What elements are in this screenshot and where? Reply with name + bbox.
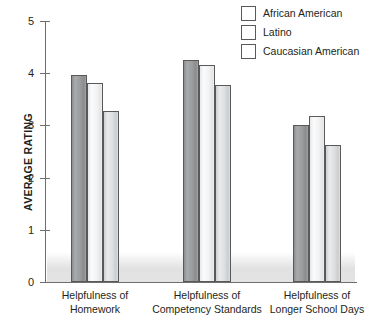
y-tick-2: 2 — [40, 178, 50, 179]
legend-swatch-icon-caucasian-american — [241, 44, 256, 59]
y-tick-label: 3 — [28, 117, 34, 133]
y-tick-4: 4 — [40, 73, 50, 74]
y-axis-line — [45, 21, 46, 283]
x-axis-label-2: Helpfulness ofLonger School Days — [252, 288, 369, 316]
legend-swatch-icon-african-american — [241, 6, 256, 21]
y-tick-1: 1 — [40, 230, 50, 231]
x-axis-label-line: Helpfulness of — [252, 288, 369, 302]
bar — [87, 83, 103, 282]
bar — [293, 125, 309, 282]
legend-label-0: African American — [263, 7, 342, 20]
y-tick-3: 3 — [40, 125, 50, 126]
y-tick-5: 5 — [40, 21, 50, 22]
x-axis-label-0: Helpfulness ofHomework — [30, 288, 160, 316]
y-tick-label: 2 — [28, 170, 34, 186]
bar — [183, 60, 199, 282]
x-axis-label-line: Homework — [30, 302, 160, 316]
legend: African American Latino Caucasian Americ… — [241, 4, 362, 61]
legend-item-0: African American — [241, 4, 362, 23]
bar — [199, 65, 215, 282]
x-axis-line — [45, 282, 357, 283]
y-tick-label: 5 — [28, 13, 34, 29]
bar — [325, 145, 341, 282]
legend-item-2: Caucasian American — [241, 42, 362, 61]
legend-label-2: Caucasian American — [263, 45, 359, 58]
legend-item-1: Latino — [241, 23, 362, 42]
bar — [103, 111, 119, 282]
legend-label-1: Latino — [263, 26, 292, 39]
x-axis-label-line: Helpfulness of — [30, 288, 160, 302]
y-tick-label: 4 — [28, 65, 34, 81]
x-axis-label-line: Longer School Days — [252, 302, 369, 316]
bar — [71, 75, 87, 282]
bar — [309, 116, 325, 282]
bar — [215, 85, 231, 282]
y-tick-0: 0 — [40, 282, 50, 283]
y-axis-title: AVERAGE RATING — [22, 82, 34, 242]
legend-swatch-icon-latino — [241, 25, 256, 40]
y-tick-label: 1 — [28, 222, 34, 238]
